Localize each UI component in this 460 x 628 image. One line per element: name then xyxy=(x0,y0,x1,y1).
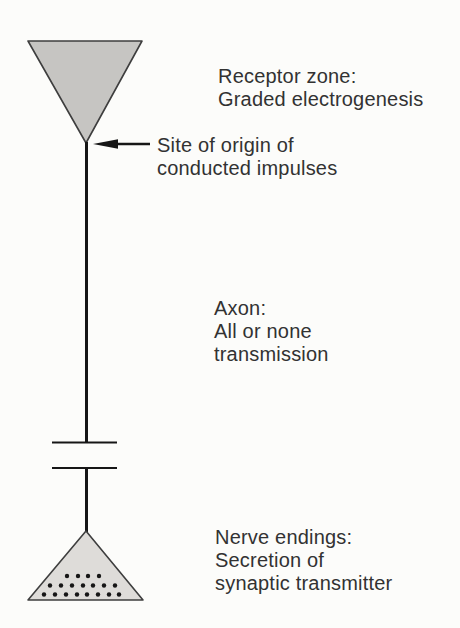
vesicle-dot xyxy=(96,592,100,596)
axon-label: Axon: All or none transmission xyxy=(214,297,329,366)
vesicle-dot xyxy=(97,574,101,578)
site-of-origin-label: Site of origin of conducted impulses xyxy=(157,134,337,180)
vesicle-dot xyxy=(107,592,111,596)
nerve-ending-triangle xyxy=(28,531,143,600)
vesicle-dot xyxy=(102,583,106,587)
vesicle-dot xyxy=(64,592,68,596)
axon-label-line2: All or none xyxy=(214,320,329,343)
origin-arrow-head xyxy=(93,139,118,149)
vesicle-dot xyxy=(91,583,95,587)
vesicle-dot xyxy=(59,583,63,587)
vesicle-dot xyxy=(75,592,79,596)
vesicle-dot xyxy=(76,574,80,578)
vesicle-dot xyxy=(81,583,85,587)
nerve-endings-label: Nerve endings: Secretion of synaptic tra… xyxy=(215,526,392,595)
receptor-zone-label-line2: Graded electrogenesis xyxy=(218,88,423,111)
nerve-endings-label-line1: Nerve endings: xyxy=(215,526,392,549)
vesicle-dot xyxy=(86,574,90,578)
vesicle-dot xyxy=(65,574,69,578)
vesicle-dot xyxy=(117,592,121,596)
vesicle-dot xyxy=(53,592,57,596)
axon-label-line3: transmission xyxy=(214,343,329,366)
vesicle-dot xyxy=(42,592,46,596)
neuron-diagram: Receptor zone: Graded electrogenesis Sit… xyxy=(0,0,460,628)
nerve-endings-label-line3: synaptic transmitter xyxy=(215,572,392,595)
vesicle-dot xyxy=(48,583,52,587)
site-of-origin-label-line1: Site of origin of xyxy=(157,134,337,157)
site-of-origin-label-line2: conducted impulses xyxy=(157,157,337,180)
origin-arrow xyxy=(93,139,150,149)
receptor-zone-label: Receptor zone: Graded electrogenesis xyxy=(218,65,423,111)
vesicle-dot xyxy=(70,583,74,587)
axon-label-line1: Axon: xyxy=(214,297,329,320)
receptor-zone-triangle xyxy=(28,41,142,143)
nerve-endings-label-line2: Secretion of xyxy=(215,549,392,572)
vesicle-dot xyxy=(113,583,117,587)
receptor-zone-label-line1: Receptor zone: xyxy=(218,65,423,88)
vesicle-dot xyxy=(85,592,89,596)
